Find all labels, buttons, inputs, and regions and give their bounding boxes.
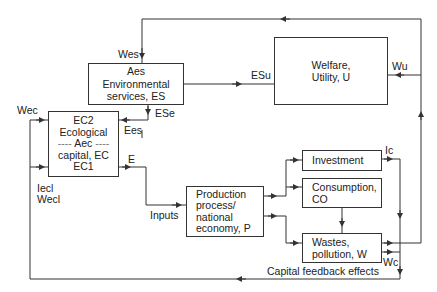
prod-line-2: process/ xyxy=(196,200,236,212)
label-wu: Wu xyxy=(392,60,408,72)
welfare-utility-box: Welfare, Utility, U xyxy=(274,37,388,105)
es-line-3: services, ES xyxy=(107,90,165,103)
label-wec: Wec xyxy=(17,104,38,116)
label-ic: Ic xyxy=(385,144,393,156)
consumption-box: Consumption, CO xyxy=(302,178,382,208)
welfare-line-1: Welfare, xyxy=(312,59,351,72)
aec-label: Aec xyxy=(74,137,92,149)
label-ese: ESe xyxy=(155,107,175,119)
dash-right: ---- xyxy=(95,137,109,149)
diagram-canvas: Aes Environmental services, ES Welfare, … xyxy=(0,0,437,292)
es-line-2: Environmental xyxy=(102,78,169,91)
prod-line-4: economy, P xyxy=(196,223,251,235)
consumption-line-1: Consumption, xyxy=(312,181,377,194)
label-e: E xyxy=(128,153,135,165)
label-wecl: Wecl xyxy=(37,193,60,205)
label-inputs: Inputs xyxy=(150,209,179,221)
label-wes: Wes xyxy=(118,48,139,60)
wastes-pollution-box: Wastes, pollution, W xyxy=(302,233,382,263)
dash-left: ---- xyxy=(58,137,72,149)
production-process-box: Production process/ national economy, P xyxy=(186,186,264,237)
environmental-services-box: Aes Environmental services, ES xyxy=(88,63,184,105)
ecological-capital-box: EC2 Ecological ---- Aec ---- capital, EC… xyxy=(48,111,119,177)
label-capital-feedback: Capital feedback effects xyxy=(267,265,379,277)
wastes-line-1: Wastes, xyxy=(312,236,350,249)
es-line-1: Aes xyxy=(127,65,145,78)
label-esu: ESu xyxy=(251,69,271,81)
label-wc: Wc xyxy=(383,256,398,268)
ec-line-5: EC1 xyxy=(73,161,93,173)
wastes-line-2: pollution, W xyxy=(312,248,367,261)
investment-box: Investment xyxy=(302,150,382,171)
consumption-line-2: CO xyxy=(312,193,328,206)
label-ees: Ees xyxy=(124,124,142,136)
investment-label: Investment xyxy=(312,154,363,167)
welfare-line-2: Utility, U xyxy=(312,71,350,84)
